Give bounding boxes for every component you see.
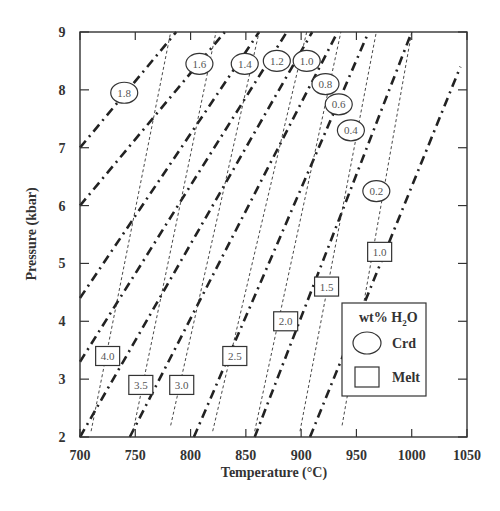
- crd-label-text: 1.2: [270, 55, 284, 67]
- x-tick-label: 1000: [398, 448, 426, 463]
- crd-label-text: 1.4: [238, 58, 252, 70]
- y-tick-label: 9: [59, 25, 66, 40]
- x-tick-label: 750: [125, 448, 146, 463]
- x-tick-label: 950: [346, 448, 367, 463]
- crd-label-text: 0.2: [369, 185, 383, 197]
- y-tick-label: 4: [59, 314, 66, 329]
- y-tick-label: 8: [59, 83, 66, 98]
- melt-label-text: 3.5: [134, 379, 148, 391]
- melt-label-text: 4.0: [101, 350, 115, 362]
- y-tick-label: 3: [59, 372, 66, 387]
- legend-melt-label: Melt: [392, 370, 420, 385]
- pt-diagram-chart: 1.81.61.41.21.00.80.60.40.24.03.53.02.52…: [0, 0, 500, 511]
- crd-label-text: 0.8: [319, 78, 333, 90]
- y-axis-title: Pressure (kbar): [24, 187, 40, 281]
- melt-label-text: 2.0: [279, 315, 293, 327]
- melt-isopleth-3-0: [171, 32, 259, 425]
- x-tick-label: 800: [180, 448, 201, 463]
- x-axis-title: Temperature (°C): [221, 465, 328, 481]
- legend: wt% H2O Crd Melt: [342, 303, 426, 396]
- legend-crd-label: Crd: [392, 336, 416, 351]
- melt-isopleth-2-5: [213, 32, 307, 431]
- crd-label-text: 1.6: [193, 58, 207, 70]
- y-tick-label: 5: [59, 256, 66, 271]
- x-tick-label: 1050: [453, 448, 481, 463]
- x-tick-label: 900: [291, 448, 312, 463]
- y-tick-label: 7: [59, 141, 66, 156]
- crd-label-text: 0.6: [332, 98, 346, 110]
- crd-isopleth-1-4: [80, 32, 259, 298]
- melt-label-text: 3.0: [175, 379, 189, 391]
- x-tick-label: 700: [70, 448, 91, 463]
- y-tick-label: 2: [59, 430, 66, 445]
- crd-label-text: 1.0: [300, 55, 314, 67]
- melt-label-text: 1.0: [373, 246, 387, 258]
- y-tick-label: 6: [59, 199, 66, 214]
- crd-label-text: 1.8: [117, 87, 131, 99]
- melt-label-text: 1.5: [320, 281, 334, 293]
- melt-label-text: 2.5: [228, 350, 242, 362]
- x-tick-label: 850: [235, 448, 256, 463]
- crd-label-text: 0.4: [344, 124, 358, 136]
